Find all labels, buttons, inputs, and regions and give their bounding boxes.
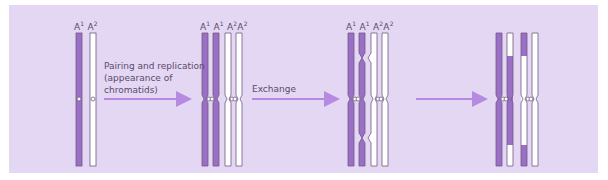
stage-3-labels: A1 A1 A2A2 [346, 20, 394, 32]
stage-1-chromosomes [76, 33, 96, 166]
stage-4-chromatids [496, 33, 538, 166]
stage-1-labels: A1 A2 [74, 20, 98, 32]
stage-3-chromatids [348, 33, 388, 166]
centromere-icon [77, 97, 81, 101]
centromere-icon [91, 97, 95, 101]
stage-2-labels: A1 A1 A2A2 [200, 20, 248, 32]
arrow-2-label: Exchange [252, 83, 296, 95]
stage-2-chromatids [202, 33, 242, 166]
arrow-1-label: Pairing and replication (appearance of c… [104, 60, 205, 96]
